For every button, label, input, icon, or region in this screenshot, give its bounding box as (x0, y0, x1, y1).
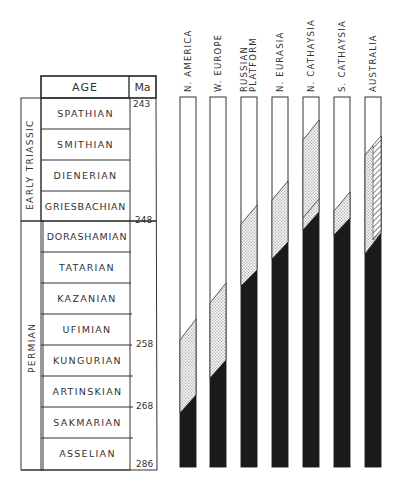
region-label-n-america: N. AMERICA (184, 30, 193, 92)
bar-n-cathaysia (303, 97, 319, 467)
region-label-n-eurasia: N. EURASIA (276, 32, 285, 92)
stage-row: KAZANIAN (43, 283, 131, 314)
bar-russian-platform (241, 97, 257, 467)
stage-row: DORASHAMIAN (43, 221, 131, 252)
period-permian: PERMIAN (27, 323, 37, 373)
stage-row: SAKMARIAN (43, 407, 132, 438)
region-label-s-cathaysia: S. CATHAYSIA (338, 20, 347, 92)
bar-w-europe (210, 97, 226, 467)
stage-row: KUNGURIAN (43, 345, 132, 376)
period-early-triassic: EARLY TRIASSIC (25, 119, 35, 210)
ma-tick: 243 (133, 99, 150, 109)
stage-row: TATARIAN (43, 252, 131, 283)
ma-tick: 248 (135, 215, 152, 225)
header-age: AGE (41, 76, 129, 98)
region-label-n-cathaysia: N. CATHAYSIA (307, 19, 316, 92)
stage-row: DIENERIAN (41, 160, 130, 191)
stage-row: ARTINSKIAN (43, 376, 132, 407)
bar-australia (365, 97, 381, 467)
stage-row: SPATHIAN (41, 98, 130, 129)
stage-row: ASSELIAN (43, 438, 132, 469)
stage-row: UFIMIAN (43, 314, 131, 345)
bar-n-america (180, 97, 196, 467)
ma-tick: 286 (136, 459, 153, 469)
stage-row: GRIESBACHIAN (41, 191, 130, 221)
header-ma: Ma (129, 76, 156, 98)
region-label-australia: AUSTRALIA (369, 34, 378, 92)
bar-n-eurasia (272, 97, 288, 467)
region-label-russian-platform: RUSSIAN PLATFORM (240, 37, 258, 92)
bar-s-cathaysia (334, 97, 350, 467)
ma-tick: 258 (136, 339, 153, 349)
stage-row: SMITHIAN (41, 129, 130, 160)
ma-tick: 268 (136, 401, 153, 411)
region-label-w-europe: W. EUROPE (214, 34, 223, 92)
